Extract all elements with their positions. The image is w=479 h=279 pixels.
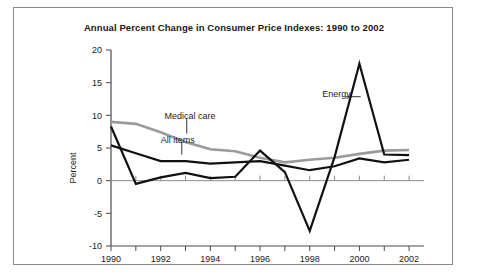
annotation-all-items: All items — [161, 135, 196, 145]
x-tick-label: 2002 — [399, 254, 419, 264]
chart-frame: Annual Percent Change in Consumer Price … — [13, 7, 453, 265]
y-tick-label: 15 — [92, 78, 102, 88]
x-tick-label: 1994 — [200, 254, 220, 264]
x-tick-label: 1998 — [300, 254, 320, 264]
x-tick-label: 1990 — [101, 254, 121, 264]
x-tick-label: 1992 — [151, 254, 171, 264]
y-tick-label: 20 — [92, 45, 102, 55]
x-tick-label: 2000 — [349, 254, 369, 264]
y-axis-title: Percent — [68, 152, 78, 184]
y-tick-label: 10 — [92, 111, 102, 121]
data-series-group — [111, 64, 409, 231]
x-tick-label: 1996 — [250, 254, 270, 264]
annotation-medical-care: Medical care — [164, 111, 215, 121]
plot-area: -10-505101520 19901992199419961998200020… — [14, 8, 454, 266]
y-tick-label: 5 — [97, 143, 102, 153]
series-line-energy — [111, 64, 409, 231]
x-axis: 1990199219941996199820002002 — [101, 246, 424, 264]
annotation-energy: Energy — [322, 89, 351, 99]
line-chart-svg: -10-505101520 19901992199419961998200020… — [14, 8, 454, 266]
series-line-medical-care — [111, 122, 409, 162]
y-axis: -10-505101520 — [89, 45, 111, 251]
y-tick-label: -5 — [94, 209, 102, 219]
y-tick-label: -10 — [89, 241, 102, 251]
y-tick-label: 0 — [97, 176, 102, 186]
